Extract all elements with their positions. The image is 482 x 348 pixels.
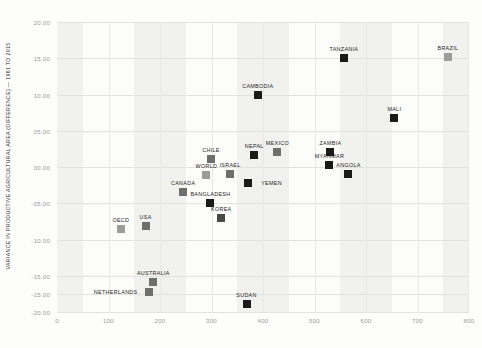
x-axis-tick-label: 600 <box>361 317 372 324</box>
x-axis-tick-labels: 0100200300400500600700800 <box>57 314 469 330</box>
x-axis-tick-label: 800 <box>464 317 475 324</box>
data-point-label: WORLD <box>196 163 218 169</box>
data-point-marker[interactable] <box>207 155 215 163</box>
data-point-marker[interactable] <box>145 288 153 296</box>
y-axis-title-text: VARIANCE IN PRODUCTIVE AGRICULTURAL AREA… <box>5 43 11 270</box>
data-point-label: CANADA <box>171 180 195 186</box>
y-axis-title: VARIANCE IN PRODUCTIVE AGRICULTURAL AREA… <box>0 0 16 312</box>
data-point-label: USA <box>140 214 152 220</box>
data-point-label: CHILE <box>202 147 219 153</box>
gridline-vertical <box>418 22 419 312</box>
y-axis-tick-label: -20.00 <box>32 309 50 316</box>
data-point-label: CAMBODIA <box>242 83 273 89</box>
data-point-marker[interactable] <box>117 225 125 233</box>
data-point-label: SUDAN <box>236 292 256 298</box>
data-point-marker[interactable] <box>390 114 398 122</box>
x-axis-tick-label: 500 <box>309 317 320 324</box>
data-point-label: NEPAL <box>245 143 264 149</box>
data-point-marker[interactable] <box>273 148 281 156</box>
data-point-label: ANGOLA <box>336 162 360 168</box>
y-axis-tick-labels: 20.0015.0010.0005.0000.00-05.00-10.00-15… <box>16 22 53 312</box>
scatter-chart: VARIANCE IN PRODUCTIVE AGRICULTURAL AREA… <box>0 0 482 348</box>
data-point-marker[interactable] <box>243 300 251 308</box>
data-point-marker[interactable] <box>142 222 150 230</box>
data-point-label: ZAMBIA <box>319 140 341 146</box>
data-point-label: BRAZIL <box>437 45 458 51</box>
gridline-vertical <box>160 22 161 312</box>
data-point-label: TANZANIA <box>329 46 358 52</box>
x-axis-tick-label: 0 <box>55 317 59 324</box>
data-point-label: MEXICO <box>266 140 289 146</box>
x-axis-tick-label: 200 <box>155 317 166 324</box>
x-axis-tick-label: 700 <box>412 317 423 324</box>
gridline-horizontal <box>57 312 469 313</box>
data-point-label: KOREA <box>211 206 231 212</box>
x-axis-tick-label: 400 <box>258 317 269 324</box>
data-point-marker[interactable] <box>149 278 157 286</box>
data-point-marker[interactable] <box>226 170 234 178</box>
data-point-label: AUSTRALIA <box>137 270 170 276</box>
data-point-label: MALI <box>387 106 401 112</box>
data-point-marker[interactable] <box>250 151 258 159</box>
x-axis-tick-label: 100 <box>103 317 114 324</box>
data-point-marker[interactable] <box>217 214 225 222</box>
data-point-label: BANGLADESH <box>190 191 230 197</box>
data-point-label: YEMEN <box>261 180 282 186</box>
data-point-marker[interactable] <box>325 161 333 169</box>
y-axis-tick-label: -15.00 <box>32 272 50 279</box>
x-axis-tick-label: 300 <box>206 317 217 324</box>
y-axis-tick-label: 10.00 <box>34 91 50 98</box>
plot-area: TANZANIABRAZILCAMBODIAMALIZAMBIAMEXICOMY… <box>57 22 469 312</box>
data-point-marker[interactable] <box>254 91 262 99</box>
y-axis-tick-label: -15.00 <box>32 290 50 297</box>
y-axis-tick-label: -10.00 <box>32 236 50 243</box>
y-axis-tick-label: 20.00 <box>34 19 50 26</box>
y-axis-tick-label: -05.00 <box>32 200 50 207</box>
data-point-marker[interactable] <box>179 188 187 196</box>
gridline-vertical <box>263 22 264 312</box>
data-point-marker[interactable] <box>244 179 252 187</box>
data-point-label: ISRAEL <box>219 162 240 168</box>
data-point-label: OECD <box>112 217 129 223</box>
data-point-marker[interactable] <box>206 199 214 207</box>
data-point-label: NETHERLANDS <box>94 289 138 295</box>
gridline-vertical <box>366 22 367 312</box>
data-point-marker[interactable] <box>444 53 452 61</box>
gridline-vertical <box>109 22 110 312</box>
y-axis-tick-label: 15.00 <box>34 55 50 62</box>
gridline-vertical <box>315 22 316 312</box>
y-axis-tick-label: 05.00 <box>34 127 50 134</box>
y-axis-tick-label: 00.00 <box>34 164 50 171</box>
data-point-marker[interactable] <box>340 54 348 62</box>
data-point-label: MYANMAR <box>315 153 344 159</box>
gridline-vertical <box>468 22 469 312</box>
data-point-marker[interactable] <box>202 171 210 179</box>
data-point-marker[interactable] <box>344 170 352 178</box>
